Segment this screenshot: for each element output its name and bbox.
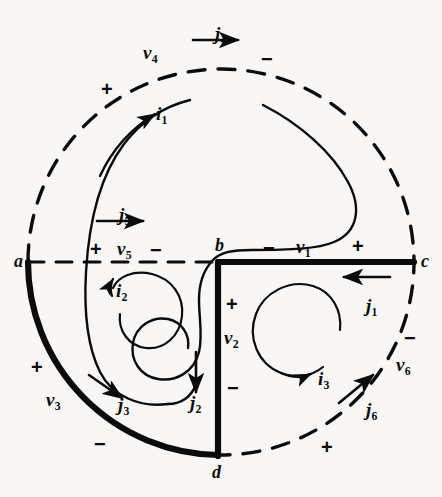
loop-current-label-i2: i2	[116, 281, 127, 300]
inner-hook-curve	[132, 105, 356, 380]
branch-current-label-j4: j4	[215, 24, 226, 43]
voltage-label-v3: v3	[46, 390, 60, 409]
node-label-b: b	[215, 236, 224, 254]
voltage-label-v6: v6	[396, 355, 410, 374]
voltage-label-v2: v2	[224, 328, 238, 347]
polarity-minus-v1: −	[263, 238, 275, 258]
loop-current-label-i3: i3	[318, 369, 329, 388]
polarity-minus-v5: −	[150, 240, 162, 260]
branch-current-label-j3: j3	[118, 395, 129, 414]
figure-canvas: a b c d v1 v2 v3 v4 v5 v6 + − + − + − + …	[0, 0, 442, 497]
node-label-d: d	[212, 463, 221, 481]
polarity-minus-v2: −	[227, 378, 239, 398]
branch-current-label-j2: j2	[190, 393, 201, 412]
i1-current-arrow	[100, 114, 155, 176]
polarity-plus-v2: +	[226, 294, 238, 314]
loop-current-i3-path	[253, 284, 340, 376]
polarity-minus-v6: −	[404, 328, 416, 348]
polarity-minus-v4: −	[261, 49, 273, 69]
node-label-a: a	[14, 252, 23, 270]
polarity-plus-v6: +	[321, 437, 333, 457]
voltage-label-v4: v4	[143, 43, 157, 62]
node-label-c: c	[421, 252, 429, 270]
branch-current-label-j6: j6	[366, 400, 377, 419]
polarity-plus-v1: +	[352, 236, 364, 256]
voltage-label-v1: v1	[296, 237, 310, 256]
voltage-label-v5: v5	[117, 239, 131, 258]
polarity-plus-v3: +	[31, 357, 43, 377]
polarity-minus-v3: −	[94, 434, 106, 454]
branch-current-label-j1: j1	[366, 296, 377, 315]
polarity-plus-v5: +	[90, 239, 102, 259]
polarity-plus-v4: +	[101, 79, 113, 99]
branch-current-label-j5: j5	[119, 205, 130, 224]
loop-current-label-i1: i1	[156, 104, 167, 123]
